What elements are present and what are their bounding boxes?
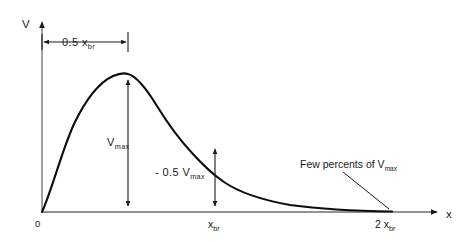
few-percents-callout: Few percents of Vmax (300, 158, 398, 209)
figure-container: V x 0 0.5 xbr Vmax - 0.5 Vmax (0, 0, 463, 242)
voltage-curve (42, 73, 392, 212)
vmax-label: Vmax (107, 136, 130, 151)
half-vmax-label: - 0.5 Vmax (155, 166, 205, 181)
axes-group (42, 22, 437, 212)
half-xbr-dimension: 0.5 xbr (42, 32, 128, 52)
x-tick-label-xbr: xbr (208, 218, 220, 233)
x-axis-label: x (446, 208, 452, 220)
few-percents-leader-line (343, 172, 389, 209)
few-percents-label: Few percents of Vmax (300, 158, 398, 172)
vmax-dimension: Vmax (107, 80, 130, 206)
origin-label: 0 (35, 218, 40, 229)
half-xbr-label: 0.5 xbr (62, 36, 95, 51)
half-vmax-dimension: - 0.5 Vmax (155, 149, 215, 206)
y-axis-label: V (22, 18, 30, 30)
x-tick-label-2xbr: 2 xbr (375, 218, 396, 233)
voltage-distribution-chart: V x 0 0.5 xbr Vmax - 0.5 Vmax (0, 0, 463, 242)
